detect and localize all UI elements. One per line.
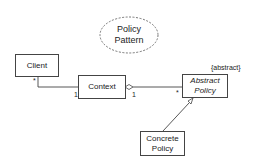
client-multiplicity: * [33, 77, 36, 85]
class-client[interactable]: Client [15, 54, 59, 77]
class-abstract-policy[interactable]: Abstract Policy [182, 74, 228, 98]
pattern-title-line2: Pattern [100, 35, 158, 46]
class-abstract-policy-name-line2: Policy [194, 86, 215, 96]
generalization-line [163, 103, 189, 131]
abstract-policy-multiplicity: * [176, 89, 179, 97]
aggregation-diamond-icon [125, 85, 133, 90]
class-concrete-policy-name-line1: Concrete [146, 134, 178, 144]
class-concrete-policy[interactable]: Concrete Policy [140, 131, 185, 156]
class-abstract-policy-name-line1: Abstract [190, 76, 219, 86]
class-context-name: Context [88, 82, 116, 92]
class-context[interactable]: Context [78, 75, 126, 99]
context-right-multiplicity: 1 [132, 91, 136, 99]
pattern-title-line1: Policy [100, 24, 158, 35]
pattern-title: Policy Pattern [100, 24, 158, 46]
client-context-association [38, 76, 78, 87]
stereotype-label: {abstract} [211, 64, 241, 72]
context-left-multiplicity: 1 [74, 91, 78, 99]
class-concrete-policy-name-line2: Policy [152, 144, 173, 154]
class-client-name: Client [27, 61, 47, 71]
